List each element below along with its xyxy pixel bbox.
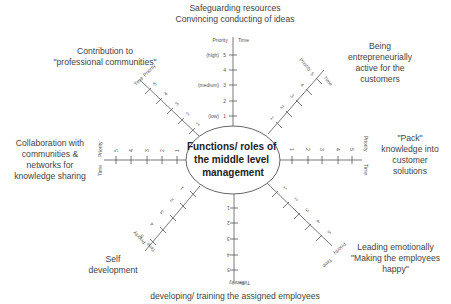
bottom-time-caption: Time [239,280,250,286]
axis-top-right [268,70,324,134]
tick-label: 4 [148,221,154,227]
role-line: "Pack" [370,133,450,144]
top-time-caption: Time [238,37,249,43]
tick-label: 1 [269,115,275,121]
role-line: "professional communities" [40,57,170,68]
right-time-caption: Time [363,164,369,175]
tick-label: 1 [174,149,180,152]
role-line: customers [335,74,425,85]
tick-label: 5 [113,149,119,152]
level-high: (high) [206,52,219,58]
role-line: development [78,265,148,276]
role-line: active for the [335,63,425,74]
tick-label: 5 [223,52,226,58]
role-line: Collaboration with [4,138,96,149]
tick-label: 4 [223,67,226,73]
tick-label: 3 [173,100,179,106]
role-top-line: Safeguarding resources [140,3,330,14]
role-line: developing/ training the assigned employ… [130,291,340,302]
axis-bottom-left [145,186,200,251]
tick-label: 3 [227,236,230,242]
role-line: Self [78,254,148,265]
tick-label: 1 [227,205,230,211]
role-bottom-right: Leading emotionally "Making the employee… [340,242,451,275]
tick-label: 2 [223,98,226,104]
role-top-line: Convincing conducting of ideas [140,14,330,25]
role-right: "Pack" knowledge into customer solutions [370,133,450,177]
axis-top-left [140,80,199,136]
tick-label: 2 [293,196,299,202]
top-right-priority-caption: Priority [298,57,313,73]
tick-label: 5 [227,267,230,273]
tick-label: 2 [279,104,285,110]
tick-label: 3 [144,149,150,152]
tick-label: 2 [168,197,174,203]
role-top-left: Contribution to "professional communitie… [40,46,170,68]
center-line-2: the middle level [194,154,269,165]
tick-label: 2 [227,220,230,226]
top-right-time-caption: Time [322,75,334,87]
tick-label: 2 [305,148,311,151]
role-line: Being [335,41,425,52]
tick-label: 4 [315,218,321,224]
tick-label: 4 [299,82,305,88]
bottom-left-priority-caption: Priority [131,230,147,246]
tick-label: 1 [178,185,184,191]
role-line: knowledge sharing [4,171,96,182]
tick-label: 2 [184,110,190,116]
level-low: (low) [208,113,219,119]
tick-label: 5 [309,71,315,77]
left-time-caption: Time [97,165,103,176]
right-priority-caption: Priority [363,136,369,152]
tick-label: 4 [128,149,134,152]
role-top-right: Being entrepreneurially active for the c… [335,41,425,85]
tick-label: 3 [289,93,295,99]
role-line: communities & [4,149,96,160]
tick-label: 2 [159,149,165,152]
top-left-time-caption: Time [132,75,144,87]
role-bottom: developing/ training the assigned employ… [130,291,340,302]
level-medium: (medium) [198,82,219,88]
left-priority-caption: Priority [97,141,103,157]
top-priority-caption: Priority [212,37,228,43]
tick-label: 5 [151,80,157,86]
role-line: knowledge into [370,144,450,155]
role-line: "Making the employees [340,253,451,264]
role-line: entrepreneurially [335,52,425,63]
bottom-left-time-caption: Time [145,241,157,253]
role-bottom-left: Self development [78,254,148,276]
tick-label: 4 [227,252,230,258]
tick-label: 5 [326,229,332,235]
center-line-1: Functions/ roles of [187,141,277,152]
role-line: networks for [4,160,96,171]
role-left: Collaboration with communities & network… [4,138,96,182]
center-line-3: management [202,167,264,178]
role-line: Contribution to [40,46,170,57]
tick-label: 4 [162,90,168,96]
tick-label: 3 [319,148,325,151]
tick-label: 3 [158,209,164,215]
role-line: customer [370,155,450,166]
tick-label: 1 [282,185,288,191]
tick-label: 3 [223,82,226,88]
tick-label: 1 [223,113,226,119]
role-top: Safeguarding resources Convincing conduc… [140,3,330,25]
tick-label: 3 [304,207,310,213]
tick-label: 5 [349,148,355,151]
role-line: happy" [340,264,451,275]
role-line: Leading emotionally [340,242,451,253]
tick-label: 1 [194,120,200,126]
bottom-right-time-caption: Time [321,257,333,269]
tick-label: 1 [289,148,295,151]
role-line: solutions [370,166,450,177]
tick-label: 4 [335,148,341,151]
